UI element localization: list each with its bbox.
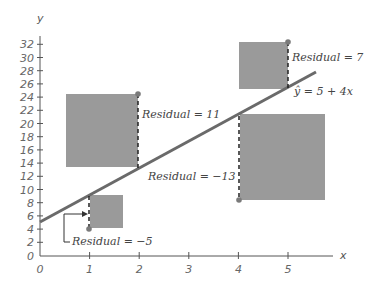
- y-tick-label: 28: [20, 65, 34, 78]
- residual-label-x1: Residual = −5: [71, 235, 153, 248]
- residual-label-x5: Residual = 7: [291, 51, 363, 64]
- residual-diagram: 02468101214161820222426283032 012345 y x…: [0, 0, 380, 286]
- y-tick-label: 14: [20, 157, 34, 170]
- y-axis: [37, 36, 43, 256]
- residual-label-x2: Residual = 11: [141, 108, 220, 121]
- y-tick-label: 26: [20, 78, 34, 91]
- residual-square-x2: [66, 94, 138, 167]
- y-tick-label: 20: [20, 118, 34, 131]
- chart-svg: 02468101214161820222426283032 012345 y x…: [0, 0, 380, 286]
- y-tick-labels: 02468101214161820222426283032: [20, 38, 34, 262]
- data-point-x4: [236, 197, 242, 203]
- y-tick-label: 8: [27, 197, 34, 210]
- data-point-x5: [285, 39, 291, 45]
- residual-square-x1: [90, 195, 123, 228]
- residual-square-x4: [240, 114, 325, 200]
- y-tick-label: 24: [20, 91, 34, 104]
- x-tick-label: 5: [285, 263, 292, 276]
- x-axis-label: x: [339, 249, 347, 262]
- x-tick-label: 3: [185, 263, 192, 276]
- x-axis: [40, 252, 333, 259]
- y-tick-label: 6: [27, 210, 34, 223]
- y-tick-label: 16: [20, 144, 34, 157]
- y-tick-label: 12: [20, 170, 34, 183]
- x-tick-label: 2: [136, 263, 143, 276]
- y-tick-label: 2: [27, 236, 34, 249]
- x-tick-label: 1: [86, 263, 93, 276]
- y-tick-label: 30: [20, 52, 34, 65]
- y-tick-label: 10: [20, 184, 34, 197]
- data-point-x1: [86, 226, 92, 232]
- data-point-x2: [135, 91, 141, 97]
- residual-label-x4: Residual = −13: [147, 170, 236, 183]
- y-tick-label: 4: [27, 223, 34, 236]
- residual-square-x5: [239, 42, 288, 89]
- y-tick-label: 0: [27, 250, 34, 263]
- x-tick-label: 0: [37, 263, 44, 276]
- y-axis-label: y: [36, 12, 44, 25]
- y-tick-label: 18: [20, 131, 34, 144]
- y-tick-label: 22: [20, 104, 34, 117]
- equation-label: ŷ = 5 + 4x: [293, 85, 354, 98]
- y-tick-label: 32: [20, 38, 34, 51]
- x-tick-label: 4: [235, 263, 242, 276]
- x-tick-labels: 012345: [37, 263, 292, 276]
